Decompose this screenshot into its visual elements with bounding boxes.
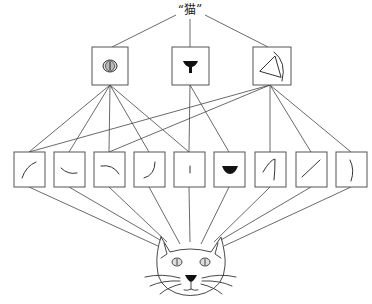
eye-icon (103, 60, 117, 72)
low-features (14, 152, 367, 187)
mid-feature-ear (253, 47, 291, 85)
cat-nose (185, 275, 197, 282)
label-edges (112, 15, 268, 47)
mid-feature-nose (172, 47, 209, 85)
mid-to-low-edges (29, 85, 351, 152)
low-to-input-edges (29, 187, 351, 246)
cat-eye-right (200, 258, 210, 266)
low-feature-1 (14, 152, 45, 187)
mid-feature-eye (92, 47, 128, 85)
low-feature-2 (54, 152, 85, 187)
low-feature-8 (296, 152, 327, 187)
cat-face-input (145, 237, 236, 296)
low-feature-4 (134, 152, 165, 187)
low-feature-9 (336, 152, 367, 187)
feature-hierarchy-diagram (0, 0, 372, 304)
low-feature-5 (174, 152, 205, 187)
low-feature-6 (214, 152, 245, 187)
cat-eye-left (172, 258, 182, 266)
low-feature-3 (94, 152, 125, 187)
low-feature-7 (255, 152, 286, 187)
